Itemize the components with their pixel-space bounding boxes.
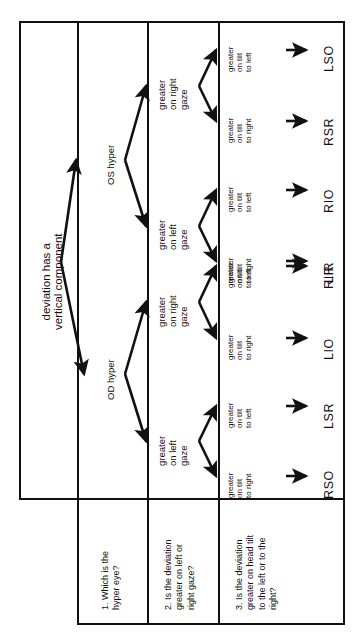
question-step-1-line-1: 1. Which is the: [100, 551, 111, 610]
node-tilt-5-l3: to left: [244, 263, 253, 288]
node-os-left-gaze-l2: on left: [167, 220, 178, 250]
node-tilt-6-l1: greater: [226, 335, 235, 360]
node-tilt-5[interactable]: greater on tilt to left: [226, 263, 253, 288]
muscle-lio-label: LIO: [322, 338, 336, 360]
node-os-left-gaze[interactable]: greater on left gaze: [156, 220, 189, 250]
muscle-lso[interactable]: LSO: [322, 45, 336, 72]
node-os-left-gaze-l1: greater: [156, 220, 167, 250]
muscle-rio-label: RIO: [322, 189, 336, 213]
question-step-2-line-1: 2. Is the deviation: [163, 539, 174, 610]
node-od-left-gaze[interactable]: greater on left gaze: [156, 436, 189, 466]
muscle-lsr-label: LSR: [322, 403, 336, 429]
question-step-3-line-4: right?: [268, 535, 279, 610]
node-tilt-8-l3: to right: [244, 473, 253, 498]
node-od-right-gaze-l1: greater: [156, 295, 167, 327]
column-divider-1: [77, 21, 79, 500]
question-divider-1: [147, 500, 149, 625]
node-tilt-1-l1: greater: [226, 47, 235, 72]
node-tilt-5-l1: greater: [226, 263, 235, 288]
node-od-left-gaze-l1: greater: [156, 436, 167, 466]
column-divider-3: [218, 21, 220, 500]
question-step-2-line-3: right gaze?: [186, 539, 197, 610]
node-os-right-gaze-l3: gaze: [178, 78, 189, 110]
node-od-hyper[interactable]: OD hyper: [105, 359, 116, 400]
node-tilt-8-l1: greater: [226, 473, 235, 498]
question-divider-2: [218, 500, 220, 625]
question-step-2: 2. Is the deviation greater on left or r…: [163, 539, 197, 610]
question-step-3: 3. Is the deviation greater on head tilt…: [234, 535, 279, 610]
muscle-rsr-label: RSR: [322, 118, 336, 146]
node-od-hyper-label: OD hyper: [105, 359, 116, 400]
muscle-rir[interactable]: RIR: [322, 266, 336, 289]
node-os-hyper-label: OS hyper: [105, 145, 116, 185]
node-tilt-7[interactable]: greater on tilt to left: [226, 403, 253, 428]
node-od-left-gaze-l2: on left: [167, 436, 178, 466]
question-step-1: 1. Which is the hyper eye?: [100, 551, 123, 610]
muscle-rso-label: RSO: [322, 470, 336, 499]
muscle-lsr[interactable]: LSR: [322, 403, 336, 429]
node-tilt-2[interactable]: greater on tilt to right: [226, 118, 253, 143]
node-tilt-1-l3: to left: [244, 47, 253, 72]
muscle-lso-label: LSO: [322, 45, 336, 72]
node-tilt-3-l2: on tilt: [235, 187, 244, 212]
node-tilt-6[interactable]: greater on tilt to right: [226, 335, 253, 360]
muscle-rir-label: RIR: [322, 266, 336, 289]
muscle-lio[interactable]: LIO: [322, 338, 336, 360]
node-tilt-2-l2: on tilt: [235, 118, 244, 143]
node-os-left-gaze-l3: gaze: [178, 220, 189, 250]
muscle-rso[interactable]: RSO: [322, 470, 336, 499]
diagram-title-text: deviation has avertical component: [40, 233, 64, 330]
column-divider-2: [147, 21, 149, 500]
node-od-right-gaze[interactable]: greater on right gaze: [156, 295, 189, 327]
node-tilt-8[interactable]: greater on tilt to right: [226, 473, 253, 498]
node-tilt-3-l3: to left: [244, 187, 253, 212]
node-tilt-7-l2: on tilt: [235, 403, 244, 428]
node-tilt-7-l1: greater: [226, 403, 235, 428]
diagram-title: deviation has avertical component: [40, 233, 64, 330]
node-os-hyper[interactable]: OS hyper: [105, 145, 116, 185]
question-step-2-line-2: greater on left or: [174, 539, 185, 610]
node-tilt-8-l2: on tilt: [235, 473, 244, 498]
question-step-3-line-3: to the left or to the: [257, 535, 268, 610]
node-tilt-3[interactable]: greater on tilt to left: [226, 187, 253, 212]
node-tilt-6-l2: on tilt: [235, 335, 244, 360]
node-tilt-2-l3: to right: [244, 118, 253, 143]
node-tilt-3-l1: greater: [226, 187, 235, 212]
node-od-right-gaze-l2: on right: [167, 295, 178, 327]
question-step-3-line-2: greater on head tilt: [245, 535, 256, 610]
node-od-left-gaze-l3: gaze: [178, 436, 189, 466]
node-os-right-gaze-l1: greater: [156, 78, 167, 110]
node-od-right-gaze-l3: gaze: [178, 295, 189, 327]
node-tilt-6-l3: to right: [244, 335, 253, 360]
node-tilt-1-l2: on tilt: [235, 47, 244, 72]
question-step-3-line-1: 3. Is the deviation: [234, 535, 245, 610]
node-os-right-gaze[interactable]: greater on right gaze: [156, 78, 189, 110]
node-os-right-gaze-l2: on right: [167, 78, 178, 110]
node-tilt-2-l1: greater: [226, 118, 235, 143]
node-tilt-7-l3: to left: [244, 403, 253, 428]
diagram-sheet: deviation has avertical component OS hyp…: [0, 0, 361, 639]
muscle-rio[interactable]: RIO: [322, 189, 336, 213]
muscle-rsr[interactable]: RSR: [322, 118, 336, 146]
question-step-1-line-2: hyper eye?: [111, 551, 122, 610]
node-tilt-1[interactable]: greater on tilt to left: [226, 47, 253, 72]
node-tilt-5-l2: on tilt: [235, 263, 244, 288]
